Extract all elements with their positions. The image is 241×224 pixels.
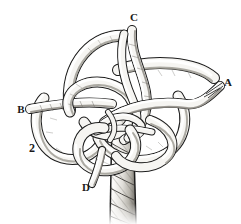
figure-number: 2 [29,141,35,155]
knot-illustration: A B C D 2 [0,0,241,224]
label-c: C [130,11,138,23]
label-a: A [224,76,232,88]
label-b: B [17,103,25,115]
label-d: D [82,181,90,193]
figure-plate: A B C D 2 [0,0,241,224]
